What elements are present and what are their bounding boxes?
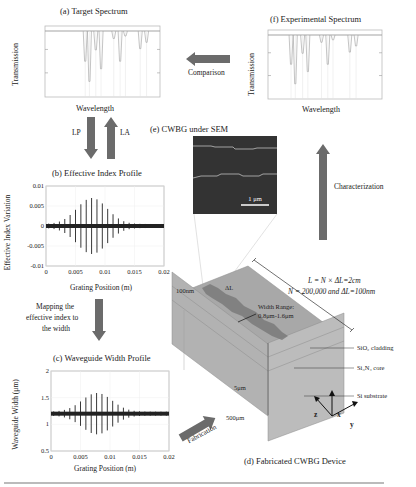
width-range-label-2: 0.8μm-1.6μm xyxy=(258,312,294,319)
label-sio2-cladding: SiO₂ cladding xyxy=(357,344,393,351)
axis-x-label: x xyxy=(337,410,341,419)
sem-image: 1 μm xyxy=(193,136,277,214)
x-tick-label: 0.01 xyxy=(104,453,115,460)
panel-f-xlabel: Wavelength xyxy=(302,105,340,114)
panel-e-title: (e) CWBG under SEM xyxy=(150,124,228,134)
mapping-label-3: the width xyxy=(42,324,70,333)
comparison-arrow-icon xyxy=(186,52,230,66)
panel-a-xlabel: Wavelength xyxy=(76,104,114,113)
panel-a-title: (a) Target Spectrum xyxy=(60,6,128,16)
y-tick-label: 2 xyxy=(46,367,49,374)
characterization-label: Characterization xyxy=(334,182,384,191)
mapping-label-2: effective index to xyxy=(26,313,78,322)
x-tick-label: 0.005 xyxy=(73,453,88,460)
sem-scalebar-label: 1 μm xyxy=(248,195,261,202)
panel-c-ylabel: Waveguide Width (μm) xyxy=(11,379,20,449)
panel-f-ylabel: Transmission xyxy=(247,53,256,96)
mapping-label-1: Mapping the xyxy=(36,302,74,311)
label-si-substrate: Si substrate xyxy=(357,392,387,399)
lp-arrow-down-icon xyxy=(84,117,98,159)
panel-b-title: (b) Effective Index Profile xyxy=(52,168,142,178)
la-label: LA xyxy=(120,128,130,137)
profile-band xyxy=(51,412,169,416)
panel-b-xlabel: Grating Position (m) xyxy=(70,283,132,292)
x-tick-label: 0.005 xyxy=(68,268,83,275)
y-tick-label: 0 xyxy=(41,222,44,229)
characterization-arrow-up-icon xyxy=(316,144,330,240)
panel-b-ylabel: Effective Index Variation xyxy=(3,195,12,271)
equation-line-2: N = 200,000 and ΔL=100nm xyxy=(288,287,375,296)
label-5um: 5μm xyxy=(234,384,246,391)
label-100nm: 100nm xyxy=(176,287,194,294)
panel-c-xlabel: Grating Position (m) xyxy=(74,464,136,473)
y-tick-label: 0.01 xyxy=(33,182,44,189)
equation-line-1: L = N × ΔL=2cm xyxy=(308,276,361,285)
panel-a-ylabel: Transmission xyxy=(11,43,20,86)
y-tick-label: 1 xyxy=(46,420,49,427)
y-tick-label: 1.5 xyxy=(41,394,49,401)
x-tick-label: 0 xyxy=(49,453,52,460)
x-tick-label: 0.015 xyxy=(132,453,147,460)
label-500um: 500μm xyxy=(226,414,244,421)
plot-frame xyxy=(268,30,382,99)
panel-f-spectrum xyxy=(265,28,385,101)
x-tick-label: 0.015 xyxy=(127,268,142,275)
comparison-label: Comparison xyxy=(188,68,225,77)
y-tick-label: -0.01 xyxy=(30,262,44,269)
axis-y-label: y xyxy=(350,420,354,429)
la-arrow-up-icon xyxy=(104,117,118,159)
panel-c-title: (c) Waveguide Width Profile xyxy=(53,353,151,363)
panel-d-title: (d) Fabricated CWBG Device xyxy=(244,456,346,466)
x-tick-label: 0 xyxy=(44,268,47,275)
panel-f-title: (f) Experimental Spectrum xyxy=(270,14,361,24)
plot-frame xyxy=(45,26,160,97)
panel-b-plot: 00.0050.010.0150.020.010.0050-0.005-0.01 xyxy=(20,180,180,282)
y-tick-label: 0.005 xyxy=(29,202,44,209)
label-si3n4-core: Si₃N₄ core xyxy=(357,364,384,371)
figure-caption-cutoff xyxy=(4,480,384,486)
panel-a-spectrum xyxy=(42,24,163,99)
width-range-label-1: Width Range: xyxy=(258,303,294,310)
axis-z-label: z xyxy=(314,410,317,419)
y-tick-label: -0.005 xyxy=(27,242,44,249)
lp-label: LP xyxy=(72,128,81,137)
mapping-arrow-down-icon xyxy=(92,299,106,341)
x-tick-label: 0.01 xyxy=(99,268,110,275)
y-tick-label: 0.5 xyxy=(41,447,49,454)
label-delta-l: ΔL xyxy=(225,284,233,291)
profile-band xyxy=(46,224,164,228)
